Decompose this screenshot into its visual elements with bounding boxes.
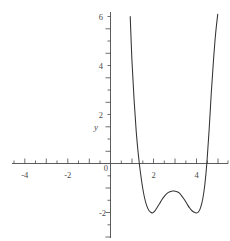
x-tick-label-neg2: -2 bbox=[64, 170, 71, 180]
y-tick-label-2: 2 bbox=[99, 110, 103, 120]
x-axis-ticks bbox=[14, 159, 228, 164]
x-tick-label-pos2: 2 bbox=[151, 170, 155, 180]
y-axis-label: y bbox=[93, 122, 98, 132]
plot-canvas: -4 -2 2 4 6 4 2 0 -2 y bbox=[0, 0, 230, 241]
function-curve bbox=[130, 14, 218, 213]
x-tick-label-neg4: -4 bbox=[21, 170, 29, 180]
chart-figure: -4 -2 2 4 6 4 2 0 -2 y bbox=[0, 0, 230, 241]
y-axis-ticks bbox=[106, 17, 111, 238]
y-tick-label-0: 0 bbox=[104, 163, 108, 173]
y-tick-label-neg2: -2 bbox=[99, 208, 106, 218]
x-tick-label-pos4: 4 bbox=[194, 170, 199, 180]
y-tick-label-6: 6 bbox=[99, 12, 103, 22]
y-tick-label-4: 4 bbox=[99, 61, 104, 71]
